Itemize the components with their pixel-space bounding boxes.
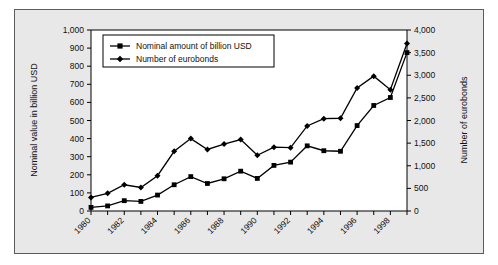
data-point-marker [122, 198, 127, 203]
data-point-marker [355, 123, 360, 128]
data-point-marker [155, 193, 160, 198]
data-point-marker [172, 182, 177, 187]
data-point-marker [338, 149, 343, 154]
x-axis-tick-labels: 1980198219841986198819901992199419961998 [72, 215, 392, 236]
eurobond-line-chart: 01002003004005006007008009001,000 05001,… [15, 10, 483, 253]
right-axis-tick-labels: 05001,0001,5002,0002,5003,0003,5004,000 [414, 25, 436, 216]
data-point-marker [105, 204, 110, 209]
data-point-marker [238, 169, 243, 174]
right-axis-ticks [407, 30, 411, 211]
data-point-marker [288, 160, 293, 165]
data-point-marker [371, 103, 376, 108]
data-point-marker [305, 143, 310, 148]
x-tick-label: 1998 [371, 215, 392, 236]
left-tick-label: 500 [70, 116, 84, 126]
right-tick-label: 4,000 [414, 25, 436, 35]
x-tick-label: 1990 [238, 215, 259, 236]
left-tick-label: 900 [70, 43, 84, 53]
right-tick-label: 1,000 [414, 161, 436, 171]
left-tick-label: 700 [70, 79, 84, 89]
legend-marker-square [117, 43, 122, 48]
x-tick-label: 1982 [105, 215, 126, 236]
right-axis-title: Number of eurobonds [459, 76, 469, 164]
right-tick-label: 3,500 [414, 48, 436, 58]
left-tick-label: 800 [70, 61, 84, 71]
right-tick-label: 3,000 [414, 70, 436, 80]
right-tick-label: 0 [414, 206, 419, 216]
left-tick-label: 200 [70, 170, 84, 180]
data-point-marker [188, 174, 193, 179]
x-tick-label: 1986 [172, 215, 193, 236]
chart-plate: 01002003004005006007008009001,000 05001,… [14, 9, 484, 254]
legend-label: Nominal amount of billion USD [136, 41, 252, 51]
right-tick-label: 1,500 [414, 138, 436, 148]
right-tick-label: 2,000 [414, 116, 436, 126]
x-tick-label: 1994 [305, 215, 326, 236]
left-axis-tick-labels: 01002003004005006007008009001,000 [63, 25, 85, 216]
data-point-marker [138, 199, 143, 204]
x-tick-label: 1992 [272, 215, 293, 236]
left-tick-label: 300 [70, 152, 84, 162]
left-tick-label: 0 [79, 206, 84, 216]
right-tick-label: 2,500 [414, 93, 436, 103]
data-point-marker [205, 181, 210, 186]
data-point-marker [222, 176, 227, 181]
data-point-marker [321, 148, 326, 153]
left-tick-label: 600 [70, 97, 84, 107]
left-axis-ticks [87, 30, 91, 211]
data-point-marker [388, 95, 393, 100]
data-point-marker [255, 176, 260, 181]
x-axis-ticks [91, 211, 407, 215]
data-point-marker [405, 50, 410, 55]
left-axis-title: Nominal value in billion USD [29, 63, 39, 177]
x-tick-label: 1980 [72, 215, 93, 236]
data-point-marker [89, 205, 94, 210]
x-tick-label: 1996 [338, 215, 359, 236]
figure-frame: 01002003004005006007008009001,000 05001,… [0, 0, 498, 265]
chart-legend: Nominal amount of billion USDNumber of e… [103, 35, 274, 67]
right-tick-label: 500 [414, 183, 428, 193]
data-point-marker [272, 163, 277, 168]
left-tick-label: 400 [70, 134, 84, 144]
x-tick-label: 1988 [205, 215, 226, 236]
left-tick-label: 1,000 [63, 25, 85, 35]
left-tick-label: 100 [70, 188, 84, 198]
x-tick-label: 1984 [138, 215, 159, 236]
legend-label: Number of eurobonds [136, 54, 218, 64]
